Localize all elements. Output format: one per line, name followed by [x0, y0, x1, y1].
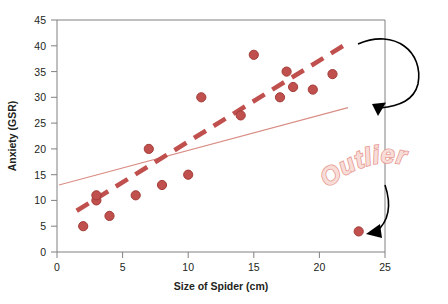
data-points [79, 50, 364, 236]
outlier-annotation-label: Outlier [314, 140, 410, 192]
data-point [157, 180, 166, 189]
data-point [328, 70, 337, 79]
svg-text:Outlier: Outlier [314, 140, 410, 192]
regression-line-without-outlier [77, 43, 348, 211]
y-tick-5: 5 [40, 220, 46, 232]
data-point [144, 144, 153, 153]
x-tick-10: 10 [182, 261, 194, 273]
x-tick-15: 15 [248, 261, 260, 273]
data-point [131, 191, 140, 200]
x-axis-ticks [57, 252, 385, 258]
trend-lines [59, 43, 348, 211]
data-point [92, 191, 101, 200]
y-tick-0: 0 [40, 246, 46, 258]
y-tick-20: 20 [34, 143, 46, 155]
y-axis-title: Anxiety (GSR) [6, 101, 18, 172]
arrow-to-regression-line [358, 39, 419, 116]
y-tick-15: 15 [34, 169, 46, 181]
y-tick-40: 40 [34, 40, 46, 52]
regression-line-with-outlier [59, 108, 348, 185]
data-point [197, 93, 206, 102]
x-axis-tick-labels: 0 5 10 15 20 25 [54, 261, 391, 273]
y-tick-25: 25 [34, 117, 46, 129]
y-tick-10: 10 [34, 194, 46, 206]
x-tick-25: 25 [379, 261, 391, 273]
y-tick-35: 35 [34, 66, 46, 78]
y-tick-30: 30 [34, 91, 46, 103]
data-point [236, 111, 245, 120]
data-point [275, 93, 284, 102]
x-axis-title: Size of Spider (cm) [174, 280, 269, 292]
data-point [308, 85, 317, 94]
data-point [184, 170, 193, 179]
outlier-annotation-text: Outlier [314, 140, 410, 192]
x-tick-20: 20 [314, 261, 326, 273]
y-axis-ticks [51, 20, 57, 252]
scatter-plot-figure: 0 5 10 15 20 25 30 35 40 45 0 5 10 15 20… [0, 0, 448, 304]
data-point [282, 67, 291, 76]
data-point [105, 211, 114, 220]
x-tick-5: 5 [120, 261, 126, 273]
y-tick-45: 45 [34, 14, 46, 26]
y-axis-tick-labels: 0 5 10 15 20 25 30 35 40 45 [34, 14, 46, 258]
outlier-data-point [354, 227, 363, 236]
data-point [289, 82, 298, 91]
data-point [79, 222, 88, 231]
x-tick-0: 0 [54, 261, 60, 273]
data-point [249, 50, 258, 59]
